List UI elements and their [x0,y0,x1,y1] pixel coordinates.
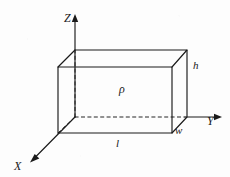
right-face-edges [172,50,187,133]
z-axis-line [72,14,78,117]
z-axis-label: Z [64,12,71,24]
density-label: ρ [119,83,125,95]
y-axis-line [185,114,222,120]
x-axis-label: X [14,160,21,172]
height-label: h [193,60,199,71]
box-diagram-svg [0,0,230,177]
y-axis-label: Y [207,115,214,127]
geometry-figure: Z Y X h w l ρ [0,0,230,177]
top-face-edges [58,50,187,67]
x-axis-line [30,117,75,163]
length-label: l [116,138,119,149]
width-label: w [175,125,182,136]
